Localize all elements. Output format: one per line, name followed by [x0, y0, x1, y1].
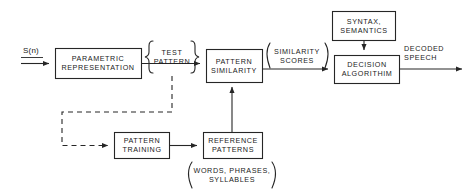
block-label-line1: PATTERN — [122, 136, 161, 145]
label-words-phrases-syllables: WORDS, PHRASES, SYLLABLES — [194, 166, 271, 184]
block-label-line1: PARAMETRIC — [61, 54, 134, 63]
block-label-line2: ALGORITHIM — [342, 69, 393, 78]
paren-left-similarity-scores — [267, 43, 270, 68]
label-decoded-speech-line1: DECODED — [404, 44, 444, 53]
block-label-line2: REPRESENTATION — [61, 63, 134, 72]
paren-left-words-phrases — [189, 162, 193, 188]
label-similarity-scores-line2: SCORES — [274, 56, 320, 65]
paren-right-words-phrases — [272, 162, 276, 188]
block-label-pattern-similarity: PATTERN SIMILARITY — [211, 57, 257, 75]
paren-right-similarity-scores — [325, 43, 328, 68]
label-decoded-speech-line2: SPEECH — [404, 53, 444, 62]
label-test-pattern: TEST PATTERN — [154, 48, 191, 66]
label-words-phrases-line2: SYLLABLES — [194, 175, 271, 184]
block-label-line1: REFERENCE — [208, 136, 258, 145]
block-label-pattern-training: PATTERN TRAINING — [122, 136, 161, 154]
block-label-line2: SIMILARITY — [211, 66, 257, 75]
block-label-line1: DECISION — [342, 60, 393, 69]
label-similarity-scores: SIMILARITY SCORES — [274, 47, 320, 65]
brace-right-test-pattern — [191, 41, 199, 73]
block-label-line1: SYNTAX, — [340, 17, 387, 26]
label-test-pattern-line2: PATTERN — [154, 57, 191, 66]
block-label-decision-algorithm: DECISION ALGORITHIM — [342, 60, 393, 78]
block-label-line2: SEMANTICS — [340, 26, 387, 35]
block-label-syntax-semantics: SYNTAX, SEMANTICS — [340, 17, 387, 35]
block-label-line2: TRAINING — [122, 145, 161, 154]
block-label-parametric-representation: PARAMETRIC REPRESENTATION — [61, 54, 134, 72]
label-decoded-speech: DECODED SPEECH — [404, 44, 444, 62]
block-label-reference-patterns: REFERENCE PATTERNS — [208, 136, 258, 154]
brace-left-test-pattern — [145, 41, 153, 73]
label-words-phrases-line1: WORDS, PHRASES, — [194, 166, 271, 175]
block-label-line2: PATTERNS — [208, 145, 258, 154]
diagram-vector-layer — [0, 0, 476, 193]
label-similarity-scores-line1: SIMILARITY — [274, 47, 320, 56]
label-test-pattern-line1: TEST — [154, 48, 191, 57]
diagram-canvas: PARAMETRIC REPRESENTATION PATTERN SIMILA… — [0, 0, 476, 193]
block-label-line1: PATTERN — [211, 57, 257, 66]
label-input-signal: S(n) — [23, 46, 39, 56]
